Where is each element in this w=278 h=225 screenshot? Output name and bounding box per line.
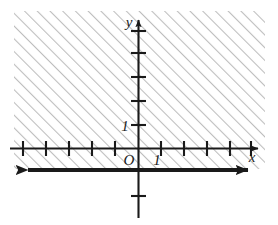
- y-axis-label: y: [124, 14, 133, 30]
- origin-label: O: [124, 152, 135, 168]
- x-axis-label: x: [248, 149, 256, 165]
- x-tick-label-one: 1: [153, 152, 161, 168]
- y-tick-label-one: 1: [121, 118, 129, 134]
- inequality-graph-figure: x y O 1 1: [0, 0, 278, 225]
- coordinate-plane-graph: x y O 1 1: [0, 0, 278, 225]
